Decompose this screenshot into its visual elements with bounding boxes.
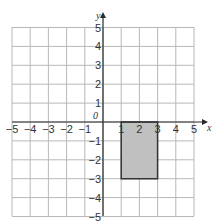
y-tick-label: 4 xyxy=(95,40,101,52)
x-tick-label: −3 xyxy=(42,123,55,135)
y-tick-label: 3 xyxy=(95,59,101,71)
y-axis-arrow-icon xyxy=(100,12,106,18)
y-tick-label: −1 xyxy=(88,135,101,147)
y-tick-label: 5 xyxy=(95,22,101,34)
x-axis-label: x xyxy=(206,122,212,133)
coordinate-grid: xy0−5−4−3−2−11234554321−1−2−3−4−5 xyxy=(0,0,213,222)
x-tick-label: 3 xyxy=(155,123,161,135)
y-tick-label: 2 xyxy=(95,78,101,90)
x-tick-label: 5 xyxy=(191,123,197,135)
origin-label: 0 xyxy=(93,110,98,121)
x-tick-label: −1 xyxy=(79,123,92,135)
x-tick-label: −2 xyxy=(60,123,73,135)
x-tick-label: 1 xyxy=(118,123,124,135)
x-tick-label: −5 xyxy=(6,123,19,135)
y-tick-label: −4 xyxy=(88,192,101,204)
y-tick-label: 1 xyxy=(95,97,101,109)
x-tick-label: −4 xyxy=(24,123,37,135)
x-tick-label: 4 xyxy=(173,123,179,135)
y-axis-label: y xyxy=(95,10,101,21)
x-tick-label: 2 xyxy=(136,123,142,135)
y-tick-label: −2 xyxy=(88,154,101,166)
y-tick-label: −3 xyxy=(88,173,101,185)
y-tick-label: −5 xyxy=(88,211,101,223)
